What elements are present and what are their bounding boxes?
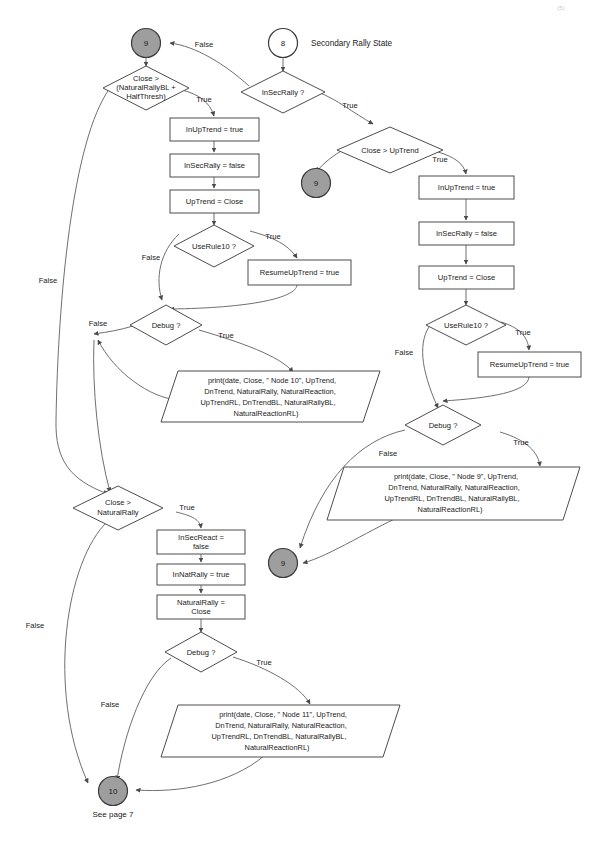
edge-d5-true-to-io1: [199, 330, 293, 372]
decision-label: UseRule10 ?: [192, 242, 236, 251]
connector-node-10[interactable]: 10: [99, 777, 128, 806]
edge-d1-false-to-d8: [56, 88, 110, 494]
print-line-4: NaturalReactionRL): [418, 505, 483, 514]
connector-node-9-mid[interactable]: 9: [302, 169, 331, 198]
process-resumeuptrend-right[interactable]: ResumeUpTrend = true: [478, 352, 581, 377]
print-line-1: print(date, Close, " Node 11", UpTrend,: [219, 710, 347, 719]
edge-label-d9-true: True: [256, 658, 271, 667]
connector-label: 10: [109, 787, 118, 796]
diagram-caption: Secondary Rally State: [311, 39, 392, 48]
edge-label-insecrally-false: False: [195, 40, 214, 49]
edge-d9-false-to-node10: [117, 658, 171, 780]
decision-label: UseRule10 ?: [444, 321, 488, 330]
process-line-2: Close: [191, 607, 210, 616]
edge-label-d1-false: False: [39, 276, 58, 285]
process-line-1: NaturalRally =: [177, 598, 225, 607]
process-resumeuptrend-left[interactable]: ResumeUpTrend = true: [248, 260, 351, 285]
process-insecrally-false-right[interactable]: InSecRally = false: [419, 222, 514, 245]
decision-label: Close > UpTrend: [361, 146, 418, 155]
process-label: ResumeUpTrend = true: [260, 268, 339, 277]
edge-label-d5-true: True: [218, 331, 233, 340]
edge-label-d6-true: True: [515, 328, 530, 337]
print-line-2: DnTrend, NaturalRally, NaturalReaction,: [204, 387, 335, 396]
decision-close-gt-naturalrallybl[interactable]: Close > (NaturalRallyBL + HalfThresh): [103, 66, 189, 110]
flowchart-canvas: 9 8 Secondary Rally State (5) Close > (N…: [0, 0, 593, 852]
edge-d4-false-to-d5: [159, 234, 179, 300]
process-label: InUpTrend = true: [438, 183, 495, 192]
process-label: InUpTrend = true: [186, 125, 243, 134]
connector-label: 8: [281, 39, 286, 48]
decision-debug-node9[interactable]: Debug ?: [405, 405, 481, 445]
decision-label: Debug ?: [152, 321, 181, 330]
edge-label-d3-true: True: [432, 155, 447, 164]
edge-label-d4-false: False: [142, 253, 161, 262]
decision-label: Debug ?: [429, 421, 458, 430]
process-inuptrend-true-right[interactable]: InUpTrend = true: [419, 176, 514, 199]
edge-label-d8-false: False: [26, 621, 45, 630]
print-line-3: UpTrendRL, DnTrendBL, NaturalRallyBL,: [211, 732, 346, 741]
print-line-2: DnTrend, NaturalRally, NaturalReaction,: [388, 483, 519, 492]
decision-line-2: (NaturalRallyBL +: [116, 83, 176, 92]
see-page-note: See page 7: [93, 810, 134, 819]
process-label: InNatRally = true: [173, 570, 230, 579]
print-line-4: NaturalReactionRL): [245, 743, 310, 752]
process-label: InSecRally = false: [436, 229, 497, 238]
connector-node-9-left[interactable]: 9: [132, 29, 161, 58]
edge-insecrally-false-to-node9: [170, 43, 249, 86]
process-line-1: InSecReact =: [178, 533, 224, 542]
decision-line-1: Close >: [133, 74, 160, 83]
edge-d8-false-to-node10: [65, 521, 108, 783]
edge-label-d1-true: True: [196, 95, 211, 104]
decision-line-3: HalfThresh): [126, 92, 166, 101]
io-print-node9[interactable]: print(date, Close, " Node 9", UpTrend, D…: [327, 467, 580, 520]
print-line-1: print(date, Close, " Node 9", UpTrend,: [394, 472, 518, 481]
process-naturalrally-close[interactable]: NaturalRally = Close: [157, 595, 245, 619]
connector-label: 9: [314, 179, 319, 188]
connector-label: 9: [144, 39, 149, 48]
edge-label-d4-true: True: [265, 232, 280, 241]
decision-label: Debug ?: [187, 648, 216, 657]
connector-label: 9: [281, 559, 286, 568]
process-insecreact-false[interactable]: InSecReact = false: [157, 530, 245, 554]
edge-label-insecrally-true: True: [342, 101, 357, 110]
print-line-2: DnTrend, NaturalRally, NaturalReaction,: [215, 721, 346, 730]
decision-debug-node11[interactable]: Debug ?: [165, 632, 237, 672]
edge-label-d5-false: False: [89, 319, 108, 328]
process-insecrally-false-left[interactable]: InSecRally = false: [170, 154, 259, 177]
edge-io1-to-merge: [98, 340, 178, 400]
edge-label-d7-false: False: [379, 449, 398, 458]
decision-userule10-left[interactable]: UseRule10 ?: [174, 225, 254, 267]
decision-debug-node10[interactable]: Debug ?: [130, 305, 202, 345]
print-line-3: UpTrendRL, DnTrendBL, NaturalRallyBL,: [200, 398, 335, 407]
edge-label-d6-false: False: [395, 348, 414, 357]
process-label: ResumeUpTrend = true: [490, 360, 569, 369]
io-print-node11[interactable]: print(date, Close, " Node 11", UpTrend, …: [161, 705, 400, 757]
io-print-node10[interactable]: print(date, Close, " Node 10", UpTrend, …: [161, 371, 380, 422]
decision-label: InSecRally ?: [262, 88, 305, 97]
decision-userule10-right[interactable]: UseRule10 ?: [426, 305, 506, 345]
process-label: UpTrend = Close: [438, 273, 495, 282]
decision-close-gt-naturalrally[interactable]: Close > NaturalRally: [73, 486, 163, 530]
connector-node-9-bottom[interactable]: 9: [269, 549, 298, 578]
edge-label-d8-true: True: [179, 503, 194, 512]
edge-merge-to-d8: [94, 340, 110, 492]
decision-line-2: NaturalRally: [97, 508, 139, 517]
decision-close-gt-uptrend[interactable]: Close > UpTrend: [337, 127, 443, 173]
print-line-3: UpTrendRL, DnTrendBL, NaturalRallyBL,: [384, 494, 519, 503]
flowchart-page: 9 8 Secondary Rally State (5) Close > (N…: [0, 0, 593, 852]
process-label: InSecRally = false: [184, 161, 245, 170]
edge-d8-true-to-p9: [176, 512, 201, 528]
decision-line-1: Close >: [105, 498, 132, 507]
connector-node-8[interactable]: 8: [269, 29, 298, 58]
process-line-2: false: [193, 542, 209, 551]
process-label: UpTrend = Close: [186, 197, 243, 206]
process-inuptrend-true-left[interactable]: InUpTrend = true: [170, 118, 259, 141]
decision-insecrally[interactable]: InSecRally ?: [241, 71, 325, 113]
page-corner-mark: (5): [557, 5, 564, 11]
edge-d6-false-to-d7: [423, 324, 438, 408]
process-uptrend-close-left[interactable]: UpTrend = Close: [170, 190, 259, 213]
edge-label-d9-false: False: [101, 700, 120, 709]
process-uptrend-close-right[interactable]: UpTrend = Close: [419, 266, 514, 289]
process-innatrally-true[interactable]: InNatRally = true: [157, 564, 245, 585]
print-line-4: NaturalReactionRL): [234, 409, 299, 418]
